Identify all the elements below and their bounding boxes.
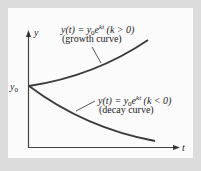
growth-caption: (growth curve) bbox=[62, 34, 122, 44]
growth-pointer bbox=[92, 47, 101, 63]
growth-curve bbox=[29, 40, 148, 86]
origin-label: y0 bbox=[10, 82, 18, 95]
decay-pointer bbox=[76, 101, 95, 111]
x-axis-label: t bbox=[182, 143, 185, 153]
y-axis-label: y bbox=[34, 28, 38, 38]
y-axis-arrow-icon bbox=[26, 30, 31, 37]
x-axis-arrow-icon bbox=[173, 145, 180, 150]
decay-caption: (decay curve) bbox=[99, 105, 154, 115]
